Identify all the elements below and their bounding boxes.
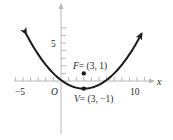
focus-coords: = (3, 1) [79, 61, 107, 72]
parabola-graph: x −5 10 5 O F= (3, 1) V= (3, −1) [0, 0, 173, 140]
y-axis-ticks [61, 28, 66, 74]
vertex-coords: = (3, −1) [80, 94, 114, 105]
y-tick-label-5: 5 [51, 39, 56, 49]
focus-point [82, 71, 86, 75]
x-tick-label-10: 10 [130, 87, 140, 97]
x-tick-label-neg5: −5 [15, 87, 25, 97]
focus-label: F= (3, 1) [72, 61, 107, 72]
vertex-point [82, 86, 86, 90]
y-axis [61, 4, 66, 134]
x-axis [14, 77, 154, 81]
x-axis-ticks [15, 77, 144, 81]
vertex-label: V= (3, −1) [74, 94, 113, 105]
x-axis-label: x [156, 76, 162, 87]
origin-label: O [51, 87, 58, 97]
